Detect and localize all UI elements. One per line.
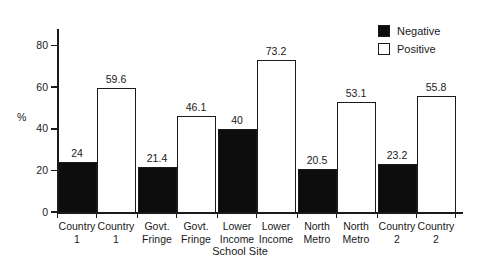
bar-value-label: 73.2 — [249, 46, 304, 57]
y-tick-label: 40 — [8, 123, 48, 134]
legend-swatch-positive — [378, 43, 390, 55]
bar-negative[interactable] — [138, 167, 177, 213]
legend-label: Positive — [397, 44, 436, 55]
bar-chart: % School Site 020406080 2459.621.446.140… — [0, 0, 480, 268]
x-tick-label-line2: 2 — [411, 233, 462, 246]
y-tick — [51, 45, 58, 47]
bar-value-label: 55.8 — [409, 82, 464, 93]
bar-negative[interactable] — [218, 129, 257, 213]
bar-negative[interactable] — [298, 169, 337, 213]
legend: NegativePositive — [378, 22, 440, 58]
bar-positive[interactable] — [97, 88, 136, 213]
bar-value-label: 59.6 — [89, 74, 144, 85]
legend-item-negative[interactable]: Negative — [378, 22, 440, 40]
y-tick-label: 80 — [8, 40, 48, 51]
bar-value-label: 46.1 — [169, 102, 224, 113]
x-tick-label: Country2 — [411, 220, 462, 245]
y-tick — [51, 128, 58, 130]
y-tick-label: 20 — [8, 165, 48, 176]
y-tick-label: 60 — [8, 82, 48, 93]
legend-swatch-negative — [378, 25, 390, 37]
x-axis-title: School Site — [0, 245, 480, 257]
legend-label: Negative — [397, 26, 440, 37]
y-tick — [51, 86, 58, 88]
bar-positive[interactable] — [417, 96, 456, 213]
bar-positive[interactable] — [257, 60, 296, 213]
bar-negative[interactable] — [58, 162, 97, 213]
y-tick-label: 0 — [8, 207, 48, 218]
bar-negative[interactable] — [378, 164, 417, 213]
bar-positive[interactable] — [177, 116, 216, 213]
legend-item-positive[interactable]: Positive — [378, 40, 440, 58]
x-tick-label-line1: Country — [411, 220, 462, 233]
y-axis-title: % — [17, 112, 26, 123]
bar-value-label: 53.1 — [329, 88, 384, 99]
